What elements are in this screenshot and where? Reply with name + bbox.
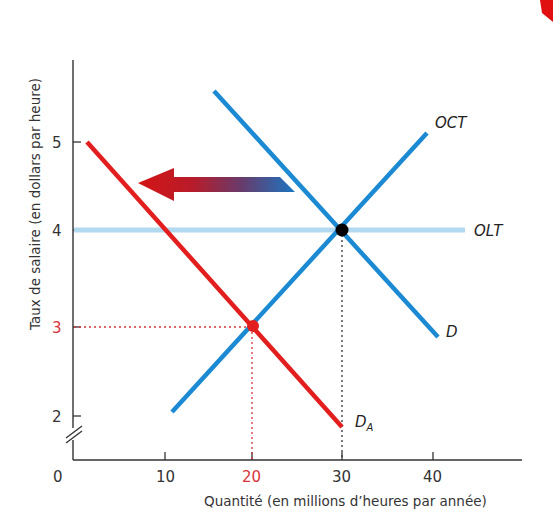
y-tick-2: 2: [52, 408, 62, 426]
oct-label: OCT: [435, 114, 468, 132]
x-tick-0: 0: [53, 468, 63, 486]
da-label-sub: A: [366, 422, 374, 433]
equilibrium-point-new: [247, 320, 259, 332]
equilibrium-point-initial: [336, 224, 349, 237]
y-tick-4: 4: [52, 222, 62, 240]
da-label-main: D: [355, 413, 367, 431]
oct-curve: [172, 133, 427, 412]
y-tick-3: 3: [52, 319, 62, 337]
axis-break-icon: [66, 426, 82, 443]
labor-market-chart: 5 4 3 2 0 10 20 30 40 Quantité (en milli…: [0, 0, 553, 531]
x-tick-40: 40: [423, 468, 442, 486]
d-curve: [214, 91, 438, 337]
da-label: DA: [355, 413, 374, 433]
y-ticks: [73, 142, 81, 416]
olt-label: OLT: [474, 222, 504, 240]
x-tick-30: 30: [332, 468, 351, 486]
d-label: D: [446, 323, 458, 341]
corner-decoration: [540, 0, 553, 22]
x-tick-20: 20: [242, 468, 261, 486]
shift-left-arrow-icon: [138, 168, 295, 201]
y-axis-title: Taux de salaire (en dollars par heure): [27, 78, 43, 331]
x-tick-10: 10: [156, 468, 175, 486]
x-ticks: [165, 452, 433, 460]
x-axis-title: Quantité (en millions d’heures par année…: [204, 493, 487, 509]
y-tick-5: 5: [52, 134, 62, 152]
